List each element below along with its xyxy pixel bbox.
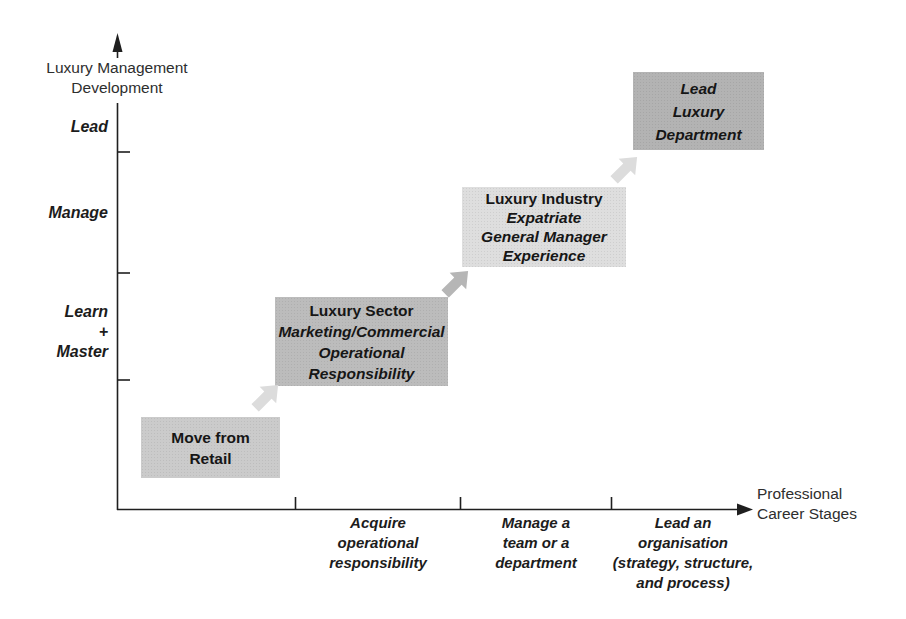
y-stage-label-manage: Manage — [48, 203, 108, 223]
box-detail-line: Operational — [318, 342, 404, 363]
y-axis-title-line: Development — [27, 78, 207, 98]
y-axis-title: Luxury Management Development — [27, 58, 207, 98]
y-stage-label-lead: Lead — [71, 117, 108, 137]
y-stage-line: + — [56, 322, 108, 342]
x-stage-line: team or a — [461, 533, 611, 553]
box-luxury-industry: Luxury Industry Expatriate General Manag… — [462, 187, 626, 267]
box-detail-line: Department — [655, 123, 741, 146]
x-stage-label-acquire: Acquire operational responsibility — [303, 513, 453, 573]
box-detail-line: Responsibility — [309, 363, 415, 384]
y-stage-line: Lead — [71, 117, 108, 137]
y-axis-title-line: Luxury Management — [27, 58, 207, 78]
x-axis-title-line: Professional — [757, 484, 857, 504]
x-stage-label-manage-team: Manage a team or a department — [461, 513, 611, 573]
box-detail-line: Lead — [680, 77, 716, 100]
y-stage-line: Manage — [48, 203, 108, 223]
x-axis-title: Professional Career Stages — [757, 484, 857, 524]
x-stage-line: Manage a — [461, 513, 611, 533]
box-detail-line: Luxury — [673, 100, 725, 123]
box-luxury-sector: Luxury Sector Marketing/Commercial Opera… — [275, 297, 448, 386]
box-detail-line: General Manager — [481, 227, 607, 246]
box-detail-line: Experience — [503, 246, 586, 265]
x-stage-line: (strategy, structure, — [593, 553, 773, 573]
x-stage-line: Lead an — [593, 513, 773, 533]
box-detail-line: Marketing/Commercial — [278, 321, 444, 342]
box-title-line: Retail — [189, 448, 231, 469]
x-stage-line: operational — [303, 533, 453, 553]
x-axis-title-line: Career Stages — [757, 504, 857, 524]
y-axis-arrowhead-icon — [113, 33, 123, 52]
y-stage-line: Learn — [56, 302, 108, 322]
x-stage-label-lead-organisation: Lead an organisation (strategy, structur… — [593, 513, 773, 593]
x-stage-line: Acquire — [303, 513, 453, 533]
box-detail-line: Expatriate — [507, 208, 582, 227]
box-lead-luxury-department: Lead Luxury Department — [633, 72, 764, 150]
career-stages-diagram: Luxury Management Development Lead Manag… — [0, 0, 906, 619]
x-stage-line: and process) — [593, 573, 773, 593]
box-title-line: Move from — [171, 427, 249, 448]
box-title-line: Luxury Industry — [485, 189, 602, 208]
box-move-from-retail: Move from Retail — [141, 417, 280, 478]
x-stage-line: department — [461, 553, 611, 573]
x-stage-line: responsibility — [303, 553, 453, 573]
box-title-line: Luxury Sector — [309, 300, 413, 321]
y-stage-label-learn-master: Learn + Master — [56, 302, 108, 362]
x-stage-line: organisation — [593, 533, 773, 553]
y-stage-line: Master — [56, 342, 108, 362]
